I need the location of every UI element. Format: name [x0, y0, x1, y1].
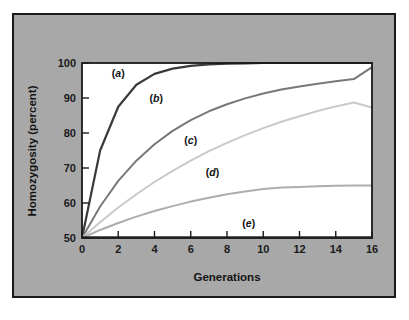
- y-tick-label: 50: [64, 232, 76, 244]
- curve-label-b: (b): [150, 92, 163, 104]
- y-axis-title: Homozygosity (percent): [26, 85, 38, 216]
- y-tick-label: 80: [64, 127, 76, 139]
- homozygosity-line-chart: 5060708090100 0246810121416 (a)(b)(c)(d)…: [14, 15, 394, 296]
- plot-area-background: [82, 63, 372, 238]
- x-tick-label: 8: [224, 243, 230, 255]
- x-tick-label: 12: [293, 243, 305, 255]
- curve-label-e: (e): [242, 217, 255, 229]
- x-tick-label: 4: [151, 243, 158, 255]
- y-tick-label: 90: [64, 92, 76, 104]
- figure-frame: 5060708090100 0246810121416 (a)(b)(c)(d)…: [12, 13, 396, 298]
- x-axis-title: Generations: [193, 271, 260, 283]
- x-tick-label: 10: [257, 243, 269, 255]
- x-tick-label: 14: [330, 243, 343, 255]
- curve-label-c: (c): [184, 134, 197, 146]
- x-tick-label: 16: [366, 243, 378, 255]
- x-tick-label: 0: [79, 243, 85, 255]
- figure-root: 5060708090100 0246810121416 (a)(b)(c)(d)…: [0, 0, 409, 320]
- y-tick-label: 70: [64, 162, 76, 174]
- y-tick-label: 100: [58, 57, 76, 69]
- curve-label-a: (a): [112, 67, 125, 79]
- curve-label-d: (d): [206, 166, 219, 178]
- x-tick-label: 2: [115, 243, 121, 255]
- x-tick-label: 6: [188, 243, 194, 255]
- y-tick-label: 60: [64, 197, 76, 209]
